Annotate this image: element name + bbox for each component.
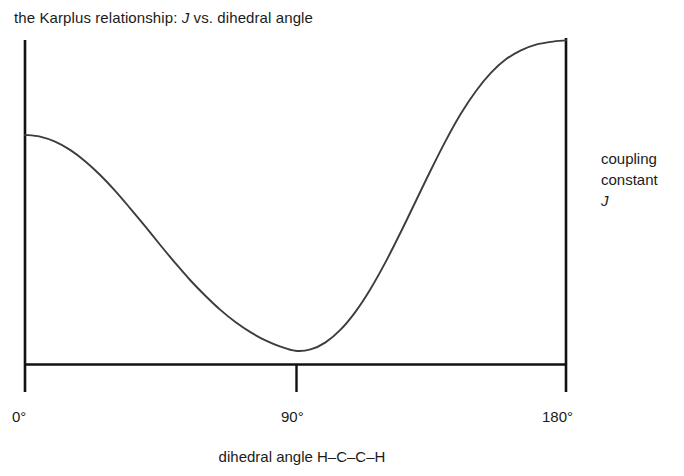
x-tick-label-90-degrees: 90° — [281, 408, 304, 426]
x-tick-label-0-degrees: 0° — [12, 408, 26, 426]
x-axis-label: dihedral angle H–C–C–H — [0, 447, 604, 466]
y-axis-label-line-1: coupling — [601, 148, 684, 169]
karplus-relationship-figure: the Karplus relationship: J vs. dihedral… — [0, 0, 684, 476]
y-axis-label: coupling constant J — [601, 148, 684, 211]
plot-area — [0, 0, 684, 476]
y-axis-label-line-2: constant — [601, 169, 684, 190]
x-tick-label-180-degrees: 180° — [542, 408, 573, 426]
y-axis-label-symbol-j: J — [601, 190, 684, 211]
karplus-curve-path — [25, 40, 566, 351]
